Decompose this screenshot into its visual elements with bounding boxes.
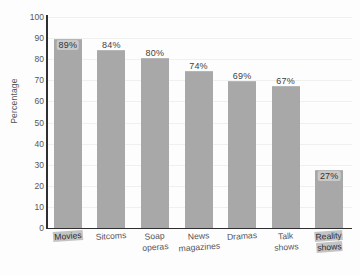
y-tick-label: 90 [0,33,44,43]
bar [141,58,169,228]
bar-group: 74% [185,17,213,228]
y-tick-label: 20 [0,181,44,191]
bar [228,81,256,228]
bar [97,50,125,228]
y-tick-label: 30 [0,160,44,170]
y-tick-label: 0 [0,223,44,233]
y-axis-line [46,15,48,229]
bar-group: 89% [54,17,82,228]
bar-group: 84% [97,17,125,228]
bar-value-label: 84% [102,40,121,50]
y-tick-label: 100 [0,12,44,22]
bar-value-label: 67% [276,76,295,86]
y-tick-label: 50 [0,118,44,128]
bar-group: 67% [272,17,300,228]
bar-group: 80% [141,17,169,228]
y-tick-label: 70 [0,75,44,85]
bar-value-label: 89% [56,40,79,50]
bar-chart: Percentage 1009080706050403020100 89%84%… [0,0,360,276]
x-axis-tick-labels: MoviesSitcomsSoapoperasNewsmagazinesDram… [47,231,352,276]
bar-group: 27% [315,17,343,228]
bar-value-label: 80% [146,48,165,58]
bar [272,86,300,228]
plot-area: 89%84%80%74%69%67%27% [47,17,352,228]
bar-value-label: 27% [318,171,341,181]
y-tick-label: 40 [0,139,44,149]
bar-value-label: 74% [189,61,208,71]
y-tick-label: 80 [0,54,44,64]
bar-group: 69% [228,17,256,228]
bar [185,71,213,228]
x-tick-label: Realityshows [301,229,358,255]
y-tick-label: 60 [0,96,44,106]
bar [54,39,82,228]
y-axis-tick-labels: 1009080706050403020100 [0,0,44,276]
y-tick-label: 10 [0,202,44,212]
bar-value-label: 69% [233,71,252,81]
